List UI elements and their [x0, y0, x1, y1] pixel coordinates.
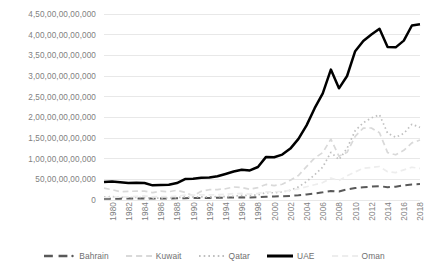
series-lines [104, 14, 420, 200]
y-tick-label: 2,00,00,00,00,000 [28, 113, 96, 122]
x-tick-label: 2004 [303, 202, 312, 221]
legend-label: Oman [362, 251, 385, 261]
y-axis: 4,50,00,00,00,0004,00,00,00,00,0003,50,0… [0, 14, 100, 200]
y-tick-label: 3,50,00,00,00,000 [28, 51, 96, 60]
x-tick-label: 2014 [384, 202, 393, 221]
y-tick-label: 1,00,00,00,00,000 [28, 154, 96, 163]
legend-item-kuwait[interactable]: Kuwait [126, 251, 182, 261]
x-tick-label: 1980 [109, 202, 118, 221]
legend-item-qatar[interactable]: Qatar [199, 251, 250, 261]
legend-swatch-qatar [199, 251, 225, 261]
x-tick-label: 1982 [125, 202, 134, 221]
x-tick-label: 1994 [222, 202, 231, 221]
legend-swatch-kuwait [126, 251, 152, 261]
y-tick-label: 50,00,00,00,000 [35, 175, 96, 184]
legend-item-bahrain[interactable]: Bahrain [44, 251, 109, 261]
legend-item-uae[interactable]: UAE [267, 251, 315, 261]
legend-label: UAE [297, 251, 315, 261]
x-tick-label: 2016 [400, 202, 409, 221]
y-tick-label: 4,50,00,00,00,000 [28, 10, 96, 19]
y-tick-label: 0 [91, 196, 96, 205]
y-tick-label: 3,00,00,00,00,000 [28, 72, 96, 81]
x-tick-label: 2012 [368, 202, 377, 221]
legend-swatch-uae [267, 251, 293, 261]
legend-swatch-bahrain [44, 251, 75, 261]
line-chart: 4,50,00,00,00,0004,00,00,00,00,0003,50,0… [0, 0, 429, 272]
plot-area [104, 14, 420, 200]
x-tick-label: 2002 [287, 202, 296, 221]
x-tick-label: 1992 [206, 202, 215, 221]
chart-legend: BahrainKuwaitQatarUAEOman [0, 246, 429, 266]
x-tick-label: 1996 [238, 202, 247, 221]
x-axis: 1980198219841986198819901992199419961998… [104, 202, 420, 242]
series-line-uae [104, 24, 420, 185]
x-tick-label: 2018 [416, 202, 425, 221]
legend-label: Qatar [229, 251, 250, 261]
x-tick-label: 2006 [319, 202, 328, 221]
legend-label: Kuwait [156, 251, 182, 261]
x-tick-label: 1988 [173, 202, 182, 221]
x-tick-label: 2000 [271, 202, 280, 221]
legend-item-oman[interactable]: Oman [332, 251, 385, 261]
y-tick-label: 2,50,00,00,00,000 [28, 92, 96, 101]
x-tick-label: 1998 [254, 202, 263, 221]
x-tick-label: 2010 [352, 202, 361, 221]
y-tick-label: 4,00,00,00,00,000 [28, 30, 96, 39]
legend-label: Bahrain [79, 251, 109, 261]
y-tick-label: 1,50,00,00,00,000 [28, 134, 96, 143]
x-tick-label: 2008 [335, 202, 344, 221]
x-tick-label: 1984 [141, 202, 150, 221]
x-tick-label: 1990 [190, 202, 199, 221]
x-tick-label: 1986 [157, 202, 166, 221]
legend-swatch-oman [332, 251, 358, 261]
